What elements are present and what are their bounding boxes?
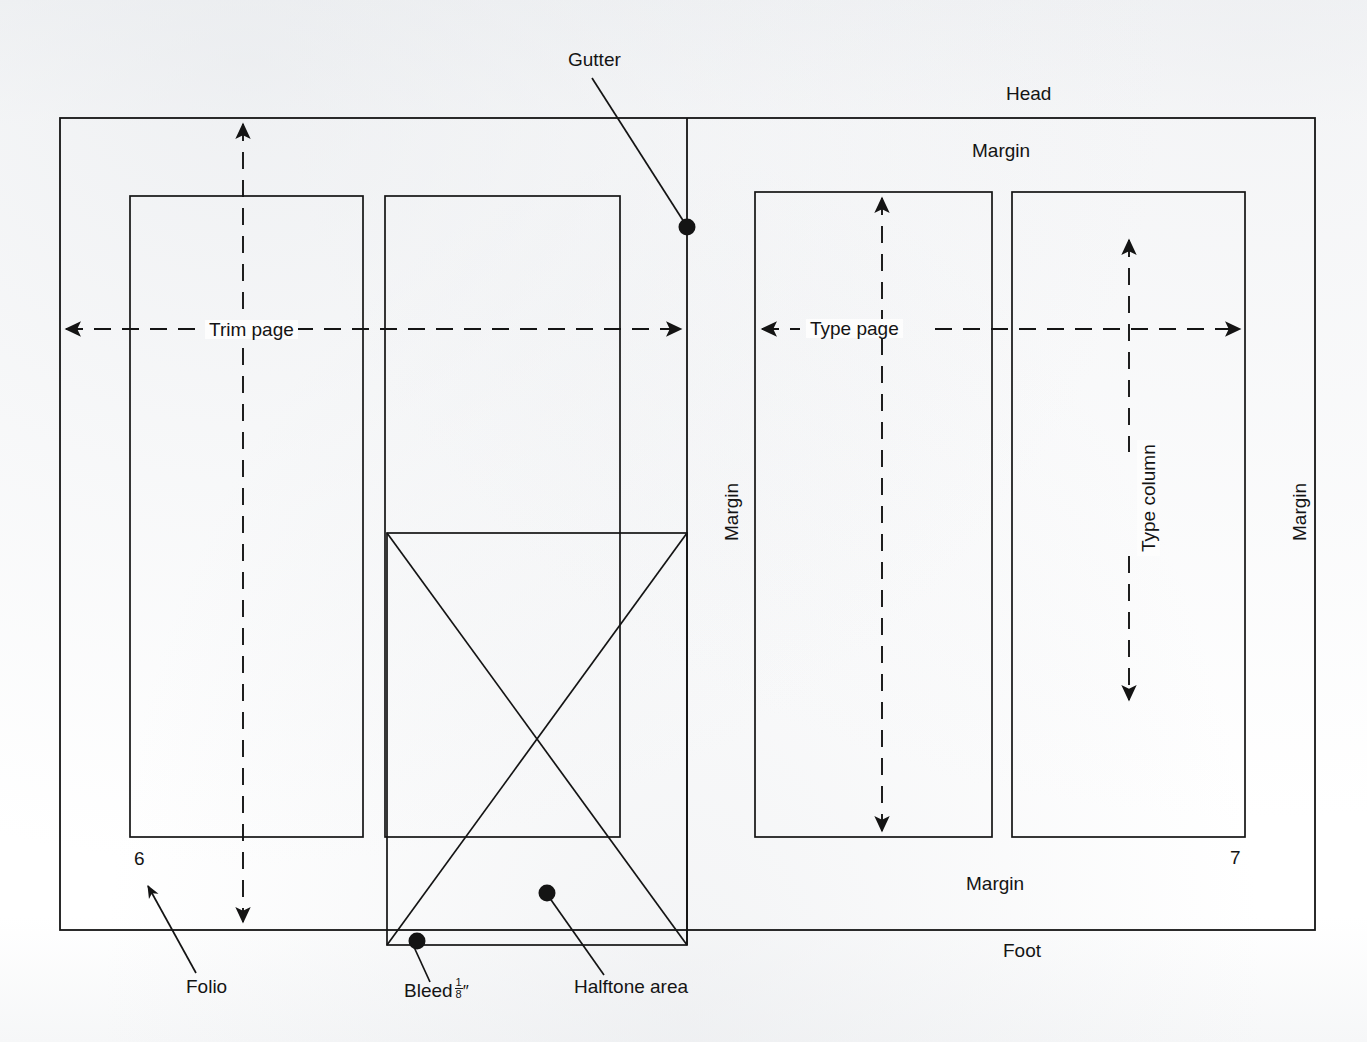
halftone-area-label: Halftone area — [574, 977, 688, 996]
gutter-label: Gutter — [568, 50, 621, 69]
gutter-dot — [679, 219, 696, 236]
margin-center-vertical-label: Margin — [722, 483, 741, 541]
gutter-leader — [592, 78, 684, 222]
bleed-inch-mark: ″ — [463, 982, 469, 1001]
callout-leaders — [148, 78, 684, 982]
type-page-label: Type page — [806, 319, 903, 338]
bleed-label: Bleed18″ — [404, 977, 469, 1000]
page-layout-diagram — [0, 0, 1367, 1042]
trim-page-label: Trim page — [205, 320, 298, 339]
foot-label: Foot — [1003, 941, 1041, 960]
verso-column-1 — [130, 196, 363, 837]
diagram-page: Gutter Head Margin Margin Foot Margin Ma… — [0, 0, 1367, 1042]
type-column-label: Type column — [1137, 440, 1160, 556]
margin-right-vertical-label: Margin — [1290, 483, 1309, 541]
halftone-dot — [539, 885, 556, 902]
recto-type-columns — [755, 192, 1245, 837]
bleed-fraction: 18 — [455, 977, 463, 1000]
verso-type-columns — [130, 196, 620, 837]
bleed-fraction-denominator: 8 — [455, 989, 463, 1000]
folio-label: Folio — [186, 977, 227, 996]
margin-top-label: Margin — [972, 141, 1030, 160]
recto-column-1 — [755, 192, 992, 837]
bleed-dot — [409, 933, 426, 950]
halftone-leader — [549, 897, 604, 975]
recto-column-2 — [1012, 192, 1245, 837]
bleed-label-text: Bleed — [404, 980, 453, 1001]
folio-recto: 7 — [1230, 848, 1241, 867]
margin-bottom-label: Margin — [966, 874, 1024, 893]
verso-column-2 — [385, 196, 620, 837]
halftone-bleed-box — [387, 533, 687, 945]
folio-verso: 6 — [134, 849, 145, 868]
head-label: Head — [1006, 84, 1051, 103]
